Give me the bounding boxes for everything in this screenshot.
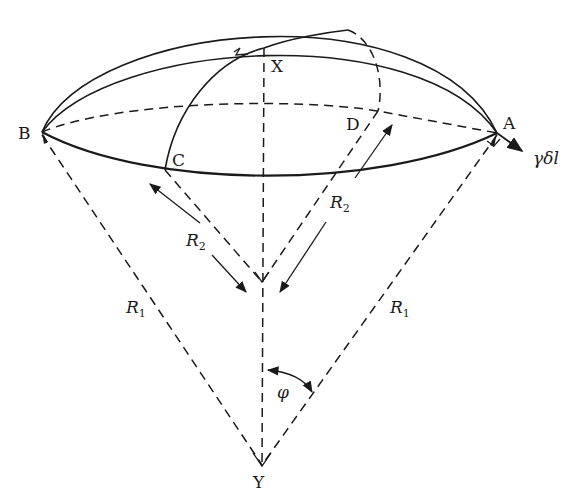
meridian-arc bbox=[165, 30, 348, 170]
point-label-y: Y bbox=[252, 472, 265, 492]
radius-c-line bbox=[165, 170, 262, 282]
r2-left-label: R2 bbox=[185, 230, 206, 253]
radius-d-line bbox=[262, 111, 378, 282]
point-label-b: B bbox=[18, 123, 31, 143]
point-label-d: D bbox=[346, 114, 360, 134]
angle-phi-label: φ bbox=[277, 382, 289, 402]
force-label: γδl bbox=[533, 148, 559, 168]
front-rim-arc bbox=[42, 132, 497, 176]
r2-left-arrow-up bbox=[150, 184, 200, 223]
soap-film-geometry-diagram: B A C D X Y γδl R2 R2 R1 R1 φ bbox=[0, 0, 577, 502]
back-rim-arc bbox=[42, 103, 497, 133]
vertical-axis bbox=[262, 48, 264, 465]
r2-right-arrow-up bbox=[355, 125, 392, 178]
point-label-c: C bbox=[172, 150, 185, 170]
r2-right-label: R2 bbox=[329, 192, 350, 215]
r2-left-arrow-down bbox=[212, 255, 246, 292]
r1-left-label: R1 bbox=[125, 297, 146, 320]
r2-right-arrow-down bbox=[280, 222, 326, 292]
point-label-a: A bbox=[502, 113, 516, 133]
radius-a-line bbox=[262, 135, 497, 465]
angle-phi-arc bbox=[268, 370, 312, 392]
radius-b-line bbox=[42, 135, 262, 465]
right-angle-mark-x bbox=[234, 48, 248, 55]
point-label-x: X bbox=[271, 56, 284, 76]
force-arrow bbox=[497, 133, 522, 151]
r1-right-label: R1 bbox=[389, 297, 410, 320]
